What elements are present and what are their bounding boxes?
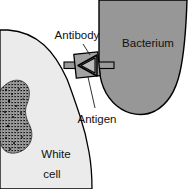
antibody-label: Antibody [55,29,100,41]
bacterium-label: Bacterium [122,37,174,49]
antigen-label: Antigen [77,113,116,125]
white-cell-label-line1: White [41,148,70,160]
white-cell-label-line2: cell [43,168,60,180]
bacterium-body [99,0,187,114]
antibody-antigen-diagram: White cell Bacterium Antibody Antigen [0,0,196,189]
antigen-leader-line [88,77,95,108]
bacterium-group: Bacterium [99,0,187,114]
diagram-root: White cell Bacterium Antibody Antigen [0,0,196,189]
